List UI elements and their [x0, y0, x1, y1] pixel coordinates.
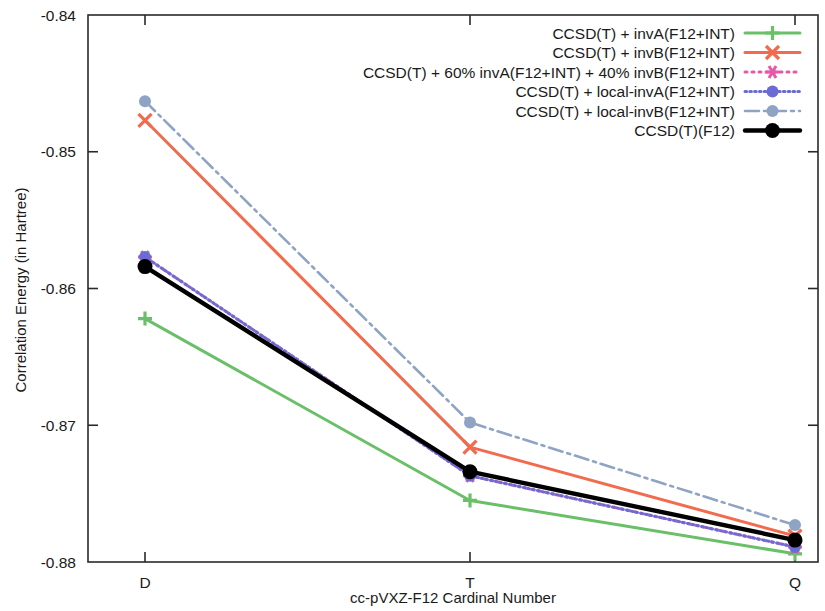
data-point-marker: [463, 493, 477, 507]
data-point-marker: [767, 105, 779, 117]
data-point-marker: [766, 66, 780, 78]
legend-item-label: CCSD(T) + local-invA(F12+INT): [515, 83, 735, 100]
x-tick-label: Q: [789, 574, 801, 591]
data-point-marker: [138, 312, 152, 326]
y-axis-title: Correlation Energy (in Hartree): [12, 187, 29, 392]
data-series: [139, 251, 801, 553]
y-axis-ticks: [88, 152, 818, 426]
line-chart-canvas: -0.84-0.85-0.86-0.87-0.88 DTQ Correlatio…: [0, 0, 825, 611]
y-axis-tick-labels: -0.84-0.85-0.86-0.87-0.88: [41, 7, 77, 571]
data-point-marker: [464, 417, 476, 429]
x-tick-label: D: [139, 574, 150, 591]
legend-item-label: CCSD(T) + local-invB(F12+INT): [515, 103, 735, 120]
x-axis-title: cc-pVXZ-F12 Cardinal Number: [350, 589, 556, 606]
chart-figure: -0.84-0.85-0.86-0.87-0.88 DTQ Correlatio…: [0, 0, 825, 611]
chart-legend: CCSD(T) + invA(F12+INT)CCSD(T) + invB(F1…: [363, 25, 800, 140]
y-tick-label: -0.84: [41, 7, 77, 24]
y-tick-label: -0.85: [41, 143, 76, 160]
data-point-marker: [463, 464, 478, 479]
data-point-marker: [788, 533, 803, 548]
legend-item-label: CCSD(T)(F12): [634, 122, 735, 139]
data-point-marker: [138, 259, 153, 274]
data-point-marker: [139, 114, 152, 127]
data-point-marker: [139, 95, 151, 107]
legend-item-label: CCSD(T) + invB(F12+INT): [552, 44, 735, 61]
data-series-group: [138, 95, 803, 561]
y-tick-label: -0.88: [41, 554, 76, 571]
data-point-marker: [789, 519, 801, 531]
data-series: [138, 312, 802, 561]
legend-item-label: CCSD(T) + 60% invA(F12+INT) + 40% invB(F…: [363, 64, 735, 81]
series-line: [145, 101, 795, 525]
data-series: [138, 251, 802, 553]
y-tick-label: -0.87: [41, 417, 76, 434]
data-point-marker: [765, 123, 780, 138]
data-point-marker: [766, 26, 780, 40]
legend-item-label: CCSD(T) + invA(F12+INT): [552, 25, 735, 42]
data-point-marker: [767, 86, 779, 98]
y-tick-label: -0.86: [41, 280, 76, 297]
